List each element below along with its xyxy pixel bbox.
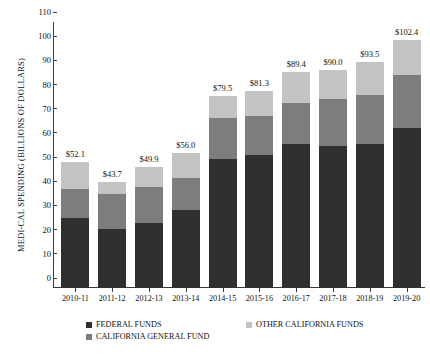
stacked-bar[interactable]: $56.0 bbox=[172, 153, 200, 288]
bar-segment-federal[interactable] bbox=[245, 155, 273, 288]
bar-segment-other[interactable] bbox=[209, 96, 237, 118]
bar-segment-general[interactable] bbox=[393, 75, 421, 129]
bar-group[interactable]: 2016-17$89.4 bbox=[282, 72, 310, 288]
legend-item-other-california-funds[interactable]: OTHER CALIFORNIA FUNDS bbox=[246, 320, 363, 329]
y-axis-tick-label: 30 bbox=[43, 200, 52, 210]
bar-segment-federal[interactable] bbox=[393, 128, 421, 288]
x-axis-tick-label: 2018-19 bbox=[356, 294, 383, 303]
x-axis-tick-mark bbox=[296, 288, 297, 292]
legend-row-2: CALIFORNIA GENERAL FUND bbox=[86, 332, 386, 341]
bar-segment-federal[interactable] bbox=[319, 146, 347, 288]
bar-segment-general[interactable] bbox=[282, 103, 310, 144]
x-axis-tick-label: 2014-15 bbox=[209, 294, 236, 303]
bar-group[interactable]: 2010-11$52.1 bbox=[61, 162, 89, 288]
y-axis-tick-label: 50 bbox=[43, 152, 52, 162]
x-axis-tick-mark bbox=[259, 288, 260, 292]
stacked-bar[interactable]: $52.1 bbox=[61, 162, 89, 288]
legend-item-california-general-fund[interactable]: CALIFORNIA GENERAL FUND bbox=[86, 332, 246, 341]
stacked-bar[interactable]: $89.4 bbox=[282, 72, 310, 288]
x-axis-tick-label: 2017-18 bbox=[319, 294, 346, 303]
bar-value-label: $56.0 bbox=[176, 140, 195, 150]
bar-value-label: $90.0 bbox=[323, 57, 342, 67]
stacked-bar[interactable]: $102.4 bbox=[393, 40, 421, 288]
legend-row-1: FEDERAL FUNDS OTHER CALIFORNIA FUNDS bbox=[86, 320, 386, 329]
bar-segment-federal[interactable] bbox=[172, 210, 200, 288]
bar-group[interactable]: 2019-20$102.4 bbox=[393, 40, 421, 288]
bar-group[interactable]: 2015-16$81.3 bbox=[245, 91, 273, 288]
bar-segment-other[interactable] bbox=[245, 91, 273, 116]
stacked-bar[interactable]: $81.3 bbox=[245, 91, 273, 288]
bar-value-label: $102.4 bbox=[395, 27, 418, 37]
bar-group[interactable]: 2018-19$93.5 bbox=[356, 62, 384, 288]
bar-group[interactable]: 2012-13$49.9 bbox=[135, 167, 163, 288]
y-axis-tick-label: 60 bbox=[43, 128, 52, 138]
x-axis-tick-mark bbox=[112, 288, 113, 292]
bar-value-label: $81.3 bbox=[250, 78, 269, 88]
bar-segment-other[interactable] bbox=[356, 62, 384, 95]
bar-segment-general[interactable] bbox=[172, 178, 200, 210]
bar-segment-federal[interactable] bbox=[98, 229, 126, 288]
bar-value-label: $49.9 bbox=[139, 154, 158, 164]
y-axis-tick-label: 100 bbox=[38, 31, 51, 41]
y-axis-tick-label: 110 bbox=[39, 7, 51, 17]
legend-swatch-icon-other-california-funds bbox=[246, 322, 252, 328]
x-axis-tick-mark bbox=[407, 288, 408, 292]
y-axis-title: MEDI-CAL SPENDING (BILLIONS OF DOLLARS) bbox=[16, 43, 26, 268]
legend-item-federal-funds[interactable]: FEDERAL FUNDS bbox=[86, 320, 246, 329]
legend-swatch-icon-california-general-fund bbox=[86, 334, 92, 340]
x-axis-tick-mark bbox=[370, 288, 371, 292]
bar-group[interactable]: 2013-14$56.0 bbox=[172, 153, 200, 288]
bar-segment-general[interactable] bbox=[245, 116, 273, 155]
bar-segment-federal[interactable] bbox=[135, 223, 163, 288]
x-axis-tick-mark bbox=[186, 288, 187, 292]
bar-value-label: $89.4 bbox=[287, 59, 306, 69]
y-axis-tick-label: 90 bbox=[43, 55, 52, 65]
stacked-bar[interactable]: $43.7 bbox=[98, 182, 126, 288]
bar-segment-general[interactable] bbox=[98, 194, 126, 230]
x-axis-tick-mark bbox=[149, 288, 150, 292]
stacked-bar[interactable]: $90.0 bbox=[319, 70, 347, 288]
bar-segment-federal[interactable] bbox=[282, 144, 310, 288]
x-axis-tick-mark bbox=[75, 288, 76, 292]
plot-area: 0102030405060708090100110 2010-11$52.120… bbox=[57, 22, 425, 288]
legend-swatch-icon-federal-funds bbox=[86, 322, 92, 328]
x-axis-tick-mark bbox=[333, 288, 334, 292]
x-axis-tick-label: 2016-17 bbox=[283, 294, 310, 303]
x-axis-tick-label: 2012-13 bbox=[135, 294, 162, 303]
bar-segment-other[interactable] bbox=[61, 162, 89, 189]
bar-value-label: $79.5 bbox=[213, 83, 232, 93]
bar-segment-other[interactable] bbox=[98, 182, 126, 193]
bar-segment-general[interactable] bbox=[61, 189, 89, 219]
x-axis-tick-label: 2019-20 bbox=[393, 294, 420, 303]
bar-segment-federal[interactable] bbox=[356, 144, 384, 288]
bar-segment-other[interactable] bbox=[319, 70, 347, 99]
bar-group[interactable]: 2014-15$79.5 bbox=[209, 96, 237, 288]
bar-group[interactable]: 2011-12$43.7 bbox=[98, 182, 126, 288]
bar-segment-other[interactable] bbox=[135, 167, 163, 187]
y-axis-tick-label: 70 bbox=[43, 104, 52, 114]
stacked-bar[interactable]: $79.5 bbox=[209, 96, 237, 288]
bar-segment-general[interactable] bbox=[135, 187, 163, 223]
x-axis-tick-label: 2011-12 bbox=[99, 294, 126, 303]
bar-group[interactable]: 2017-18$90.0 bbox=[319, 70, 347, 288]
stacked-bar[interactable]: $49.9 bbox=[135, 167, 163, 288]
bar-value-label: $93.5 bbox=[360, 49, 379, 59]
y-axis-tick-label: 0 bbox=[47, 273, 51, 283]
bar-segment-other[interactable] bbox=[282, 72, 310, 103]
bar-segment-other[interactable] bbox=[172, 153, 200, 178]
legend: FEDERAL FUNDS OTHER CALIFORNIA FUNDS CAL… bbox=[86, 320, 386, 344]
y-axis-tick-label: 80 bbox=[43, 80, 52, 90]
bar-segment-general[interactable] bbox=[356, 95, 384, 144]
bar-segment-general[interactable] bbox=[319, 99, 347, 146]
bar-value-label: $43.7 bbox=[103, 169, 122, 179]
x-axis-tick-mark bbox=[223, 288, 224, 292]
bar-segment-federal[interactable] bbox=[61, 218, 89, 288]
stacked-bar[interactable]: $93.5 bbox=[356, 62, 384, 288]
x-axis-tick-label: 2010-11 bbox=[62, 294, 89, 303]
y-axis-tick-label: 40 bbox=[43, 176, 52, 186]
legend-label-california-general-fund: CALIFORNIA GENERAL FUND bbox=[96, 332, 209, 341]
bar-segment-general[interactable] bbox=[209, 118, 237, 159]
bar-segment-federal[interactable] bbox=[209, 159, 237, 288]
bar-segment-other[interactable] bbox=[393, 40, 421, 74]
x-axis-tick-label: 2015-16 bbox=[246, 294, 273, 303]
